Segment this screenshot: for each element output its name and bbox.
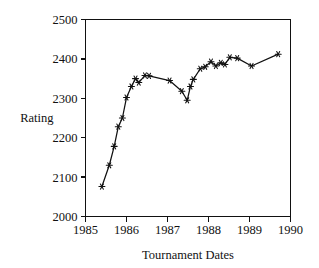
data-point-marker xyxy=(128,84,134,89)
plot-frame xyxy=(86,20,291,217)
x-axis-title: Tournament Dates xyxy=(142,248,234,262)
axis-ticks xyxy=(81,20,291,222)
y-axis-title: Rating xyxy=(20,111,54,125)
x-tick-label: 1987 xyxy=(155,223,180,237)
chart-figure: 200021002200230024002500 198519861987198… xyxy=(0,0,319,268)
x-tick-label: 1990 xyxy=(278,223,303,237)
y-tick-label: 2500 xyxy=(53,13,78,27)
data-point-marker xyxy=(146,73,152,78)
x-tick-label: 1988 xyxy=(196,223,221,237)
y-tick-label: 2300 xyxy=(53,92,78,106)
data-series-line xyxy=(102,54,278,186)
series-polyline xyxy=(102,54,278,186)
x-tick-labels: 198519861987198819891990 xyxy=(73,223,303,237)
x-tick-label: 1989 xyxy=(237,223,262,237)
rating-line-chart: 200021002200230024002500 198519861987198… xyxy=(0,0,319,268)
y-tick-labels: 200021002200230024002500 xyxy=(53,13,78,224)
y-tick-label: 2100 xyxy=(53,171,78,185)
x-tick-label: 1986 xyxy=(114,223,139,237)
y-tick-label: 2200 xyxy=(53,131,78,145)
data-point-marker xyxy=(190,77,196,82)
plot-axes xyxy=(86,20,291,217)
data-point-markers xyxy=(99,52,281,190)
y-tick-label: 2000 xyxy=(53,210,78,224)
data-point-marker xyxy=(275,52,281,57)
y-tick-label: 2400 xyxy=(53,52,78,66)
x-tick-label: 1985 xyxy=(73,223,98,237)
data-point-marker xyxy=(227,55,233,60)
